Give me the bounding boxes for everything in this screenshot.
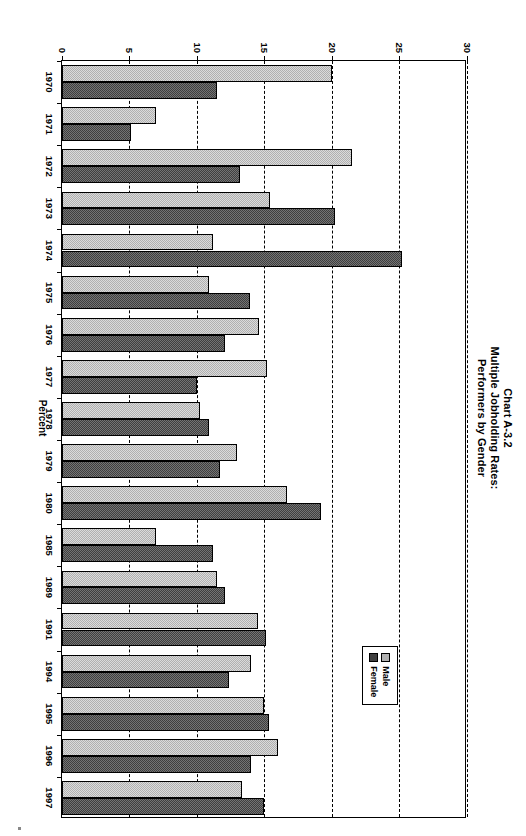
category-tick-1970 xyxy=(57,61,62,62)
legend-label-male: Male xyxy=(380,666,392,686)
category-label-1996: 1996 xyxy=(44,745,55,766)
bar-male-1997 xyxy=(62,781,242,798)
category-tick-1975 xyxy=(57,272,62,273)
title-line-2: Multiple Jobholding Rates: xyxy=(488,0,501,836)
category-label-1985: 1985 xyxy=(44,535,55,556)
category-tick-1974 xyxy=(57,229,62,230)
category-tick-1985 xyxy=(57,524,62,525)
bar-male-1985 xyxy=(62,528,157,545)
bar-male-1974 xyxy=(62,234,213,251)
category-label-1975: 1975 xyxy=(44,282,55,303)
legend-swatch-male-icon xyxy=(381,653,390,662)
category-tick-1996 xyxy=(57,735,62,736)
value-tick-5 xyxy=(130,56,131,61)
category-label-1970: 1970 xyxy=(44,71,55,92)
category-label-1989: 1989 xyxy=(44,577,55,598)
bar-male-1995 xyxy=(62,697,265,714)
value-tick-label-10: 10 xyxy=(192,42,203,53)
category-label-1977: 1977 xyxy=(44,366,55,387)
bar-female-1994 xyxy=(62,672,229,689)
bar-female-1996 xyxy=(62,756,251,773)
category-tick-1994 xyxy=(57,651,62,652)
bar-male-1996 xyxy=(62,739,278,756)
category-tick-1989 xyxy=(57,566,62,567)
bar-female-1971 xyxy=(62,124,131,141)
rotated-page-canvas: Chart A-3.2 Multiple Jobholding Rates: P… xyxy=(0,0,526,836)
category-label-1978: 1978 xyxy=(44,408,55,429)
title-line-1: Chart A-3.2 xyxy=(501,0,514,836)
chart-legend: Male Female xyxy=(362,646,398,705)
value-tick-30 xyxy=(467,56,468,61)
value-tick-25 xyxy=(400,56,401,61)
bar-male-1977 xyxy=(62,360,267,377)
bar-male-1978 xyxy=(62,402,200,419)
value-tick-label-25: 25 xyxy=(394,42,405,53)
bar-male-1979 xyxy=(62,444,238,461)
bar-female-1973 xyxy=(62,208,335,225)
category-label-1991: 1991 xyxy=(44,619,55,640)
legend-swatch-female-icon xyxy=(369,653,378,662)
bar-male-1970 xyxy=(62,65,332,82)
category-tick-1991 xyxy=(57,608,62,609)
bar-male-1980 xyxy=(62,486,287,503)
bar-female-1978 xyxy=(62,419,209,436)
category-label-1979: 1979 xyxy=(44,450,55,471)
legend-label-female: Female xyxy=(368,666,380,697)
category-tick-1971 xyxy=(57,103,62,104)
category-label-1995: 1995 xyxy=(44,703,55,724)
page-artifact xyxy=(18,827,21,830)
value-tick-label-30: 30 xyxy=(462,42,473,53)
bar-male-1973 xyxy=(62,192,270,209)
category-tick-1980 xyxy=(57,482,62,483)
bar-male-1991 xyxy=(62,613,258,630)
bar-male-1976 xyxy=(62,318,259,335)
category-tick-1977 xyxy=(57,356,62,357)
category-label-1997: 1997 xyxy=(44,787,55,808)
bar-male-1972 xyxy=(62,149,352,166)
bar-female-1977 xyxy=(62,377,197,394)
legend-item-male: Male xyxy=(380,653,392,697)
category-tick-1973 xyxy=(57,187,62,188)
bar-female-1991 xyxy=(62,630,266,647)
chart-figure: Chart A-3.2 Multiple Jobholding Rates: P… xyxy=(0,0,526,836)
value-tick-label-20: 20 xyxy=(327,42,338,53)
bar-female-1997 xyxy=(62,798,265,815)
value-tick-label-15: 15 xyxy=(259,42,270,53)
category-tick-1976 xyxy=(57,314,62,315)
category-tick-1978 xyxy=(57,398,62,399)
category-label-1980: 1980 xyxy=(44,493,55,514)
bar-female-1995 xyxy=(62,714,269,731)
gridline-15 xyxy=(265,61,266,817)
category-label-1994: 1994 xyxy=(44,661,55,682)
bar-female-1975 xyxy=(62,293,250,310)
bar-female-1976 xyxy=(62,335,225,352)
category-tick-1995 xyxy=(57,693,62,694)
category-label-1972: 1972 xyxy=(44,156,55,177)
gridline-25 xyxy=(400,61,401,817)
category-label-1976: 1976 xyxy=(44,324,55,345)
chart-title: Chart A-3.2 Multiple Jobholding Rates: P… xyxy=(475,0,514,836)
category-tick-1997 xyxy=(57,777,62,778)
gridline-30 xyxy=(467,61,468,817)
gridline-20 xyxy=(332,61,333,817)
bar-male-1971 xyxy=(62,107,157,124)
category-label-1974: 1974 xyxy=(44,240,55,261)
plot-area: 051015202530 197019711972197319741975197… xyxy=(61,60,466,818)
bar-female-1979 xyxy=(62,461,220,478)
bar-male-1994 xyxy=(62,655,251,672)
bar-male-1989 xyxy=(62,571,217,588)
value-tick-10 xyxy=(197,56,198,61)
category-label-1973: 1973 xyxy=(44,198,55,219)
legend-item-female: Female xyxy=(368,653,380,697)
bar-female-1980 xyxy=(62,503,321,520)
category-label-1971: 1971 xyxy=(44,114,55,135)
bar-female-1972 xyxy=(62,166,240,183)
value-tick-15 xyxy=(265,56,266,61)
value-tick-label-0: 0 xyxy=(57,48,68,53)
bar-female-1970 xyxy=(62,82,217,99)
bar-female-1989 xyxy=(62,587,225,604)
value-tick-20 xyxy=(332,56,333,61)
value-tick-label-5: 5 xyxy=(124,48,135,53)
title-line-3: Performers by Gender xyxy=(475,0,488,836)
bar-female-1974 xyxy=(62,251,402,268)
